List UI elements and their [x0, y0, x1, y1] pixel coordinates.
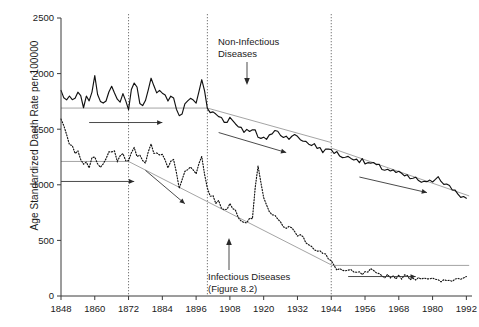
x-tick-label-1908: 1908	[219, 303, 240, 314]
y-tick-label-2000: 2000	[33, 68, 54, 79]
axes	[61, 18, 472, 296]
series-infectious	[61, 119, 466, 282]
x-tick-label-1944: 1944	[321, 303, 342, 314]
series-noninfectious	[61, 76, 466, 199]
y-tick-label-2500: 2500	[33, 12, 54, 23]
annotation-infectious: Infectious Diseases (Figure 8.2)	[208, 238, 291, 294]
era1-infectious-arrow-head	[129, 179, 134, 184]
x-tick-label-1932: 1932	[287, 303, 308, 314]
trend-arrows	[61, 120, 427, 279]
y-tick-label-1500: 1500	[33, 124, 54, 135]
infectious-era2-decline	[129, 161, 332, 264]
y-tick-label-1000: 1000	[33, 179, 54, 190]
chart-root: Age Standardized Daeth Rate per 100000 0…	[0, 0, 479, 327]
noninfectious-label-line2: Diseases	[218, 48, 257, 59]
infectious-pointer-arrowhead	[226, 238, 232, 245]
x-tick-label-1896: 1896	[186, 303, 207, 314]
annotation-noninfectious: Non-Infectious Diseases	[218, 36, 280, 85]
x-tick-label-1980: 1980	[422, 303, 443, 314]
x-tick-label-1848: 1848	[50, 303, 71, 314]
data-series	[61, 76, 466, 282]
x-tick-label-1968: 1968	[388, 303, 409, 314]
era2-noninfectious-arrow-line	[219, 133, 287, 153]
y-tick-label-500: 500	[38, 235, 54, 246]
x-tick-label-1956: 1956	[354, 303, 375, 314]
trend-lines	[61, 108, 469, 265]
x-tick-label-1920: 1920	[253, 303, 274, 314]
x-tick-label-1992: 1992	[456, 303, 477, 314]
noninfectious-label-line1: Non-Infectious	[218, 36, 280, 47]
noninfectious-pointer-arrowhead	[244, 78, 250, 85]
infectious-label-line2: (Figure 8.2)	[208, 283, 257, 294]
infectious-label-line1: Infectious Diseases	[208, 271, 291, 282]
noninfectious-era2-decline	[207, 108, 331, 142]
chart-canvas: 0500100015002000250018481860187218841896…	[0, 0, 479, 327]
y-tick-label-0: 0	[49, 290, 54, 301]
x-tick-label-1860: 1860	[84, 303, 105, 314]
x-tick-label-1884: 1884	[152, 303, 173, 314]
era3-noninfectious-arrow-head	[421, 189, 427, 194]
x-tick-label-1872: 1872	[118, 303, 139, 314]
era1-noninfectious-arrow-head	[157, 120, 162, 125]
